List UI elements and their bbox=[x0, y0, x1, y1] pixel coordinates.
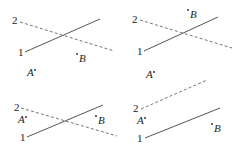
point-b-dot bbox=[211, 123, 213, 125]
panel-1: 12AB bbox=[12, 14, 114, 78]
line-1-label: 1 bbox=[137, 132, 143, 144]
diagram-canvas: 12AB12AB12AB12AB bbox=[0, 0, 244, 153]
line-1-label: 1 bbox=[137, 45, 143, 57]
line-2-label: 2 bbox=[133, 102, 139, 114]
point-a-label: A bbox=[17, 113, 25, 125]
line-2-label: 2 bbox=[132, 13, 138, 25]
line-1 bbox=[144, 17, 218, 51]
line-2 bbox=[140, 20, 232, 48]
line-2-label: 2 bbox=[14, 101, 20, 113]
line-2 bbox=[20, 22, 114, 51]
point-a-dot bbox=[144, 117, 146, 119]
panel-2: 12AB bbox=[132, 8, 232, 80]
line-1-label: 1 bbox=[20, 131, 26, 143]
point-b-dot bbox=[76, 53, 78, 55]
line-1 bbox=[27, 105, 103, 137]
point-b-label: B bbox=[98, 114, 105, 126]
point-a-dot bbox=[34, 69, 36, 71]
point-b-dot bbox=[95, 115, 97, 117]
line-1-label: 1 bbox=[18, 46, 24, 58]
panel-4: 12AB bbox=[133, 80, 221, 144]
point-a-label: A bbox=[26, 66, 34, 78]
point-a-dot bbox=[153, 71, 155, 73]
line-1 bbox=[145, 108, 220, 138]
point-a-label: A bbox=[136, 114, 144, 126]
point-a-label: A bbox=[145, 68, 153, 80]
point-b-dot bbox=[187, 9, 189, 11]
line-2-label: 2 bbox=[12, 14, 18, 26]
point-b-label: B bbox=[190, 8, 197, 20]
point-a-dot bbox=[25, 116, 27, 118]
panel-3: 12AB bbox=[14, 101, 117, 143]
point-b-label: B bbox=[214, 122, 221, 134]
line-2 bbox=[141, 80, 207, 109]
point-b-label: B bbox=[79, 52, 86, 64]
